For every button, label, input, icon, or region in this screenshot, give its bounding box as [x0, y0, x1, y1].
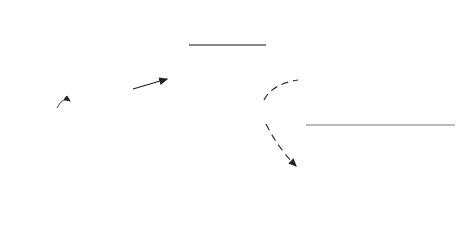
arrows-layer [0, 0, 471, 234]
dashed-link-testing-icon [264, 80, 298, 100]
arrow-to-texture-model-icon [133, 79, 167, 89]
dashed-arrow-to-mask-icon [266, 124, 296, 166]
curved-distance-arrow-icon [57, 100, 70, 108]
